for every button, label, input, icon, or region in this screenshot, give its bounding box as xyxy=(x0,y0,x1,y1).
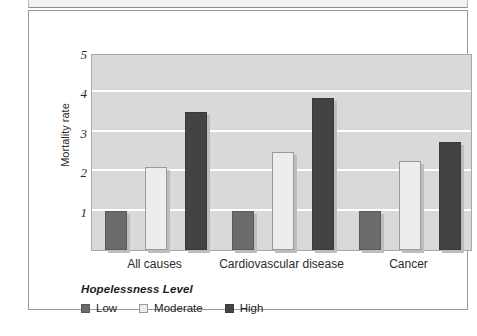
bar-body xyxy=(145,167,167,250)
gridline xyxy=(92,90,471,92)
legend-title: Hopelessness Level xyxy=(81,283,285,295)
x-axis-tick-labels: All causesCardiovascular diseaseCancer xyxy=(91,257,472,277)
legend-item-label: Low xyxy=(96,302,117,314)
legend-item-moderate: Moderate xyxy=(139,302,203,314)
figure-frame: Mortality rate 12345 All causesCardiovas… xyxy=(28,10,468,310)
bar-body xyxy=(272,152,294,251)
legend-swatch-icon xyxy=(225,304,234,313)
bar-moderate-all-causes xyxy=(145,167,167,250)
bar-low-cancer xyxy=(359,211,381,250)
bar-high-all-causes xyxy=(185,112,207,250)
bar-high-cancer xyxy=(439,142,461,250)
bar-moderate-cardiovascular-disease xyxy=(272,152,294,251)
page-top-band xyxy=(28,0,468,8)
bar-body xyxy=(359,211,381,250)
y-axis-tick-label: 4 xyxy=(65,87,87,100)
plot-area xyxy=(91,54,472,251)
y-axis-tick-label: 1 xyxy=(65,206,87,219)
bar-body xyxy=(312,98,334,250)
legend-item-label: High xyxy=(240,302,264,314)
bar-body xyxy=(399,161,421,250)
legend-swatch-icon xyxy=(139,304,148,313)
bar-body xyxy=(105,211,127,250)
bar-moderate-cancer xyxy=(399,161,421,250)
y-axis-tick-label: 5 xyxy=(65,48,87,61)
x-axis-tick-label: Cancer xyxy=(345,257,472,271)
x-axis-tick-label: Cardiovascular disease xyxy=(218,257,345,271)
legend-swatch-icon xyxy=(81,304,90,313)
bar-low-all-causes xyxy=(105,211,127,250)
legend-items: LowModerateHigh xyxy=(81,302,285,314)
y-axis-tick-label: 2 xyxy=(65,166,87,179)
legend-item-label: Moderate xyxy=(154,302,203,314)
bar-high-cardiovascular-disease xyxy=(312,98,334,250)
chart-legend: Hopelessness Level LowModerateHigh xyxy=(81,283,285,314)
bar-body xyxy=(232,211,254,250)
y-axis-tick-labels: 12345 xyxy=(63,54,87,251)
x-axis-tick-label: All causes xyxy=(91,257,218,271)
y-axis-tick-label: 3 xyxy=(65,127,87,140)
legend-item-low: Low xyxy=(81,302,117,314)
legend-item-high: High xyxy=(225,302,264,314)
gridline xyxy=(92,130,471,132)
bar-body xyxy=(185,112,207,250)
bar-body xyxy=(439,142,461,250)
bar-low-cardiovascular-disease xyxy=(232,211,254,250)
